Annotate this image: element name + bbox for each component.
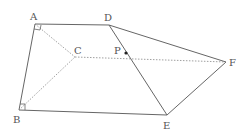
point-P-dot: [124, 51, 127, 54]
segment-CF-dashed: [75, 57, 226, 62]
geometry-diagram: A B C D E F P: [0, 0, 250, 137]
segment-EF: [167, 62, 226, 115]
label-D: D: [104, 12, 112, 23]
label-A: A: [29, 11, 38, 22]
label-E: E: [163, 120, 170, 131]
segment-DE: [109, 25, 167, 115]
segment-DF: [109, 25, 226, 62]
label-F: F: [229, 57, 236, 68]
segment-BE: [19, 110, 167, 115]
label-B: B: [13, 114, 20, 125]
label-C: C: [74, 45, 82, 56]
segment-AD: [35, 24, 109, 25]
label-P: P: [114, 45, 121, 56]
segment-AC-dashed: [35, 24, 75, 57]
